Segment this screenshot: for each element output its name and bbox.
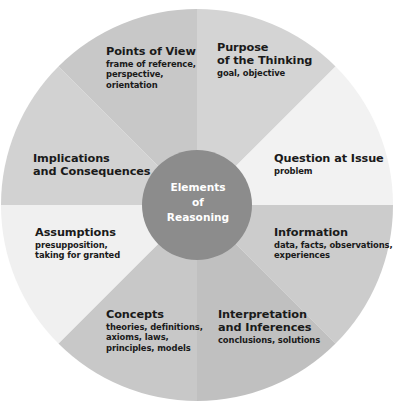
segment-title-information: Information [274,226,393,239]
segment-title-implications-and-consequences: Implications and Consequences [33,152,150,179]
segment-subtitle-assumptions: presupposition, taking for granted [35,240,120,261]
segment-title-points-of-view: Points of View [106,45,196,58]
segment-subtitle-purpose-of-the-thinking: goal, objective [217,68,312,78]
segment-label-purpose-of-the-thinking: Purpose of the Thinking goal, objective [217,41,312,79]
segment-title-interpretation-and-inferences: Interpretation and Inferences [218,308,320,335]
segment-subtitle-points-of-view: frame of reference, perspective, orienta… [106,59,196,90]
center-hub-label: Elements of Reasoning [148,180,248,225]
segment-title-assumptions: Assumptions [35,226,120,239]
segment-subtitle-interpretation-and-inferences: conclusions, solutions [218,335,320,345]
elements-of-reasoning-diagram: Elements of Reasoning Points of View fra… [0,0,401,418]
segment-title-purpose-of-the-thinking: Purpose of the Thinking [217,41,312,68]
segment-subtitle-question-at-issue: problem [274,166,384,176]
segment-title-question-at-issue: Question at Issue [274,152,384,165]
segment-label-question-at-issue: Question at Issue problem [274,152,384,176]
segment-label-implications-and-consequences: Implications and Consequences [33,152,150,179]
segment-label-information: Information data, facts, observations, e… [274,226,393,261]
segment-label-concepts: Concepts theories, definitions, axioms, … [106,308,203,353]
segment-label-assumptions: Assumptions presupposition, taking for g… [35,226,120,261]
segment-label-interpretation-and-inferences: Interpretation and Inferences conclusion… [218,308,320,346]
segment-subtitle-information: data, facts, observations, experiences [274,240,393,261]
segment-subtitle-concepts: theories, definitions, axioms, laws, pri… [106,322,203,353]
segment-title-concepts: Concepts [106,308,203,321]
segment-label-points-of-view: Points of View frame of reference, persp… [106,45,196,90]
